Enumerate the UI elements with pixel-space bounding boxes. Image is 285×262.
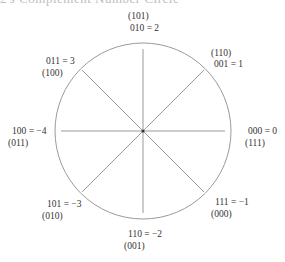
label-top-value: 010 = 2 [130, 23, 159, 34]
label-bottom-alt: (001) [124, 241, 145, 252]
center-point [142, 130, 145, 133]
label-right-alt: (111) [245, 138, 265, 149]
spoke-bottom-left [82, 131, 143, 192]
spoke-top-right [143, 70, 204, 131]
label-top-left-value: 011 = 3 [46, 56, 75, 67]
spoke-top-left [82, 70, 143, 131]
label-top-right-value: 001 = 1 [214, 59, 243, 70]
spoke-bottom-right [143, 131, 204, 192]
label-top-left-alt: (100) [42, 68, 63, 79]
label-bottom-value: 110 = −2 [128, 229, 162, 240]
label-bottom-right-value: 111 = −1 [215, 197, 249, 208]
label-bottom-left-value: 101 = −3 [47, 199, 81, 210]
label-right-value: 000 = 0 [248, 126, 277, 137]
label-left-alt: (011) [8, 138, 28, 149]
label-top-alt: (101) [128, 11, 149, 22]
label-bottom-left-alt: (010) [42, 211, 63, 222]
label-top-right-alt: (110) [211, 48, 231, 59]
label-bottom-right-alt: (000) [211, 209, 232, 220]
label-left-value: 100 = −4 [12, 126, 46, 137]
